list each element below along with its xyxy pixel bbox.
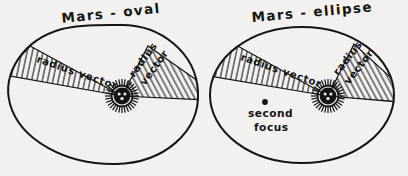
panel-title-oval: Mars - oval [61, 0, 162, 26]
panel-title-text: Mars - oval [61, 0, 162, 26]
second-focus-annotation: second focus [248, 99, 293, 133]
second-focus-label-line1: second [248, 107, 293, 119]
sector-group [4, 46, 204, 100]
diagram-mars-oval: Mars - oval [0, 0, 204, 176]
panel-title-text: Mars - ellipse [251, 0, 374, 25]
dot-marker [262, 99, 268, 105]
second-focus-label-line2: focus [254, 121, 289, 133]
diagram-mars-ellipse: Mars - ellipse second focus [204, 0, 408, 176]
panel-title-ellipse: Mars - ellipse [251, 0, 374, 25]
figure-canvas: Mars - oval [0, 0, 408, 176]
